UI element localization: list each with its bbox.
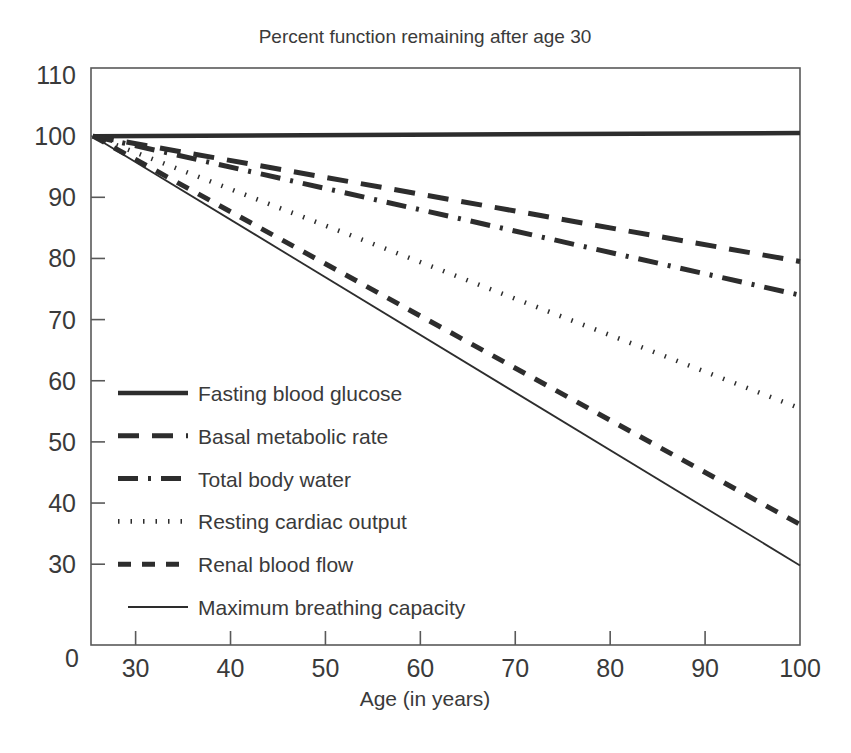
y-tick-label: 50 — [48, 428, 76, 456]
data-series-group — [93, 133, 800, 565]
x-tick-label: 70 — [501, 654, 529, 682]
chart-legend: Fasting blood glucoseBasal metabolic rat… — [118, 382, 466, 619]
chart-container: Percent function remaining after age 30 … — [0, 0, 851, 753]
x-axis-tick-labels: 30405060708090100 — [122, 654, 821, 682]
legend-label-total-body-water: Total body water — [198, 468, 351, 491]
y-tick-label: 110 — [36, 61, 76, 89]
x-tick-label: 60 — [406, 654, 434, 682]
y-tick-label: 70 — [48, 306, 76, 334]
series-line-fasting-blood-glucose — [93, 133, 800, 136]
legend-label-resting-cardiac-output: Resting cardiac output — [198, 510, 407, 533]
x-axis-ticks — [136, 631, 705, 645]
x-tick-label: 80 — [596, 654, 624, 682]
origin-zero-label: 0 — [65, 644, 79, 672]
x-tick-label: 90 — [691, 654, 719, 682]
y-tick-label: 30 — [48, 550, 76, 578]
series-line-basal-metabolic-rate — [93, 136, 800, 261]
x-tick-label: 100 — [779, 654, 821, 682]
x-tick-label: 30 — [122, 654, 150, 682]
series-line-total-body-water — [93, 136, 800, 295]
legend-label-renal-blood-flow: Renal blood flow — [198, 553, 354, 576]
percent-function-line-chart: Percent function remaining after age 30 … — [0, 0, 851, 753]
legend-label-fasting-blood-glucose: Fasting blood glucose — [198, 382, 402, 405]
y-tick-label: 40 — [48, 489, 76, 517]
y-tick-label: 80 — [48, 244, 76, 272]
series-line-renal-blood-flow — [93, 136, 800, 524]
y-tick-label: 60 — [48, 367, 76, 395]
legend-label-maximum-breathing-capacity: Maximum breathing capacity — [198, 596, 466, 619]
y-tick-label: 90 — [48, 183, 76, 211]
legend-label-basal-metabolic-rate: Basal metabolic rate — [198, 425, 388, 448]
y-axis-ticks — [91, 136, 105, 564]
y-tick-label: 100 — [34, 122, 76, 150]
chart-title: Percent function remaining after age 30 — [259, 26, 592, 47]
y-axis-tick-labels: 11010090807060504030 — [34, 61, 76, 578]
x-tick-label: 40 — [217, 654, 245, 682]
x-axis-label: Age (in years) — [360, 687, 491, 710]
x-tick-label: 50 — [312, 654, 340, 682]
